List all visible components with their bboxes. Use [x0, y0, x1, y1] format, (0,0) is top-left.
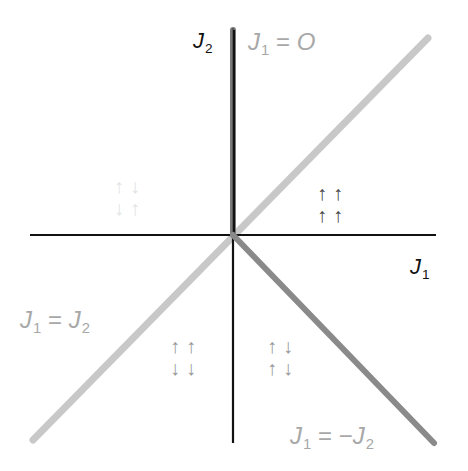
spins-upper-right: ↑↑ ↑↑: [303, 182, 363, 226]
label-j1-equals-j2: J1 = J2: [20, 308, 90, 336]
spin-arrows-row: ↑↑: [303, 182, 363, 204]
spin-arrows-row: ↓↓: [156, 357, 216, 379]
spin-arrows-row: ↑↑: [156, 335, 216, 357]
spin-arrows-row: ↓↑: [100, 197, 160, 219]
y-axis-label: J2: [193, 30, 213, 55]
spin-arrows-row: ↑↓: [253, 335, 313, 357]
diagram-canvas: [0, 0, 468, 471]
spins-lower-left: ↑↑ ↓↓: [156, 335, 216, 379]
spins-lower-right: ↑↓ ↑↓: [253, 335, 313, 379]
spin-arrows-row: ↑↓: [253, 357, 313, 379]
label-j1-equals-minus-j2: J1 = −J2: [290, 424, 374, 452]
label-j1-equals-zero: J1 = O: [248, 30, 315, 58]
spin-arrows-row: ↑↑: [303, 204, 363, 226]
spin-arrows-row: ↑↓: [100, 175, 160, 197]
spins-upper-left: ↑↓ ↓↑: [100, 175, 160, 219]
x-axis-label: J1: [410, 256, 430, 281]
